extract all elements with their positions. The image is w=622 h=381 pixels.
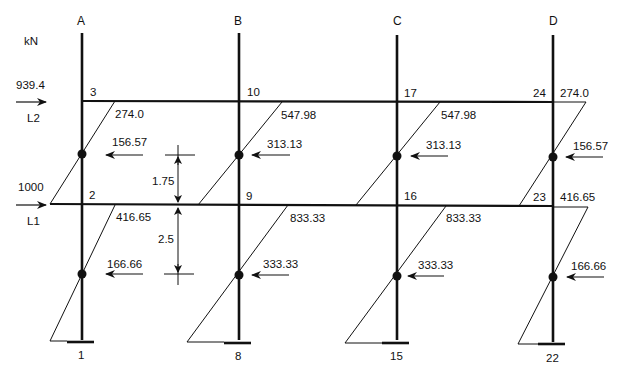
load-l1-value: 1000: [18, 181, 44, 193]
inflection-dot-b-lower: [235, 271, 244, 280]
dimension-lines: [164, 145, 195, 285]
portal-frame-diagram: kN A B C D: [0, 0, 622, 381]
columns: [82, 33, 553, 342]
lower-moment-values: 416.65 833.33 833.33 416.65: [116, 191, 595, 224]
moment-value-c-lower: 833.33: [446, 212, 481, 224]
column-label-a: A: [77, 14, 85, 28]
moment-value-c-upper: 547.98: [441, 109, 476, 121]
node-labels: 3 10 17 24 2 9 16 23 1 8 15 22: [78, 86, 559, 364]
moment-value-a-upper: 274.0: [115, 108, 144, 120]
shear-value-a-upper: 156.57: [112, 136, 147, 148]
upper-shear-forces: 156.57 313.13 313.13 156.57: [106, 136, 608, 157]
dimension-value-2-5: 2.5: [158, 233, 174, 245]
column-label-b: B: [234, 14, 242, 28]
units-label: kN: [24, 35, 38, 47]
dimension-value-1-75: 1.75: [152, 175, 174, 187]
inflection-dot-c-upper: [393, 152, 402, 161]
node-2: 2: [89, 189, 95, 201]
inflection-dot-d-upper: [549, 153, 558, 162]
moment-value-b-upper: 547.98: [281, 109, 316, 121]
moment-value-b-lower: 833.33: [290, 212, 325, 224]
load-l1-name: L1: [27, 215, 40, 227]
load-l2-name: L2: [27, 112, 40, 124]
shear-value-a-lower: 166.66: [107, 258, 142, 270]
inflection-dot-c-lower: [393, 272, 402, 281]
node-22: 22: [546, 352, 559, 364]
moment-value-d-lower: 416.65: [560, 191, 595, 203]
column-label-d: D: [549, 14, 558, 28]
shear-value-b-upper: 313.13: [267, 138, 302, 150]
upper-moment-values: 274.0 547.98 547.98 274.0: [115, 87, 589, 121]
node-15: 15: [390, 350, 403, 362]
inflection-dot-a-upper: [78, 150, 87, 159]
node-9: 9: [246, 190, 252, 202]
inflection-dot-b-upper: [235, 151, 244, 160]
node-1: 1: [78, 349, 84, 361]
column-label-c: C: [393, 14, 402, 28]
shear-value-d-lower: 166.66: [571, 260, 606, 272]
applied-loads: 939.4 L2 1000 L1: [16, 79, 46, 227]
node-8: 8: [235, 350, 241, 362]
node-23: 23: [533, 191, 546, 203]
moment-value-d-upper: 274.0: [560, 87, 589, 99]
moment-value-a-lower: 416.65: [116, 211, 151, 223]
lower-beam: [50, 204, 553, 206]
shear-value-c-upper: 313.13: [426, 139, 461, 151]
inflection-dot-d-lower: [549, 273, 558, 282]
node-10: 10: [247, 86, 260, 98]
inflection-dot-a-lower: [78, 270, 87, 279]
load-l2-value: 939.4: [16, 79, 45, 91]
supports: [67, 342, 565, 344]
node-17: 17: [404, 87, 417, 99]
shear-value-c-lower: 333.33: [418, 259, 453, 271]
shear-value-d-upper: 156.57: [573, 140, 608, 152]
node-24: 24: [533, 87, 546, 99]
node-16: 16: [404, 190, 417, 202]
shear-value-b-lower: 333.33: [263, 258, 298, 270]
upper-beam: [82, 101, 553, 102]
node-3: 3: [90, 86, 96, 98]
